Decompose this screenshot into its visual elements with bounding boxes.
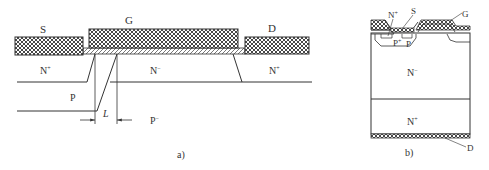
drain-label-b: D — [467, 143, 474, 153]
mosfet-cross-section-diagram: S G D N+ N− N+ P P− L a) N+ S — [0, 0, 489, 170]
gate-right-poly — [416, 20, 470, 30]
gate-label: G — [125, 14, 133, 26]
n-minus-label: N− — [150, 65, 161, 76]
source-leader — [402, 15, 413, 29]
figure-b-caption: b) — [405, 147, 413, 159]
n-plus-source-label: N+ — [40, 65, 51, 76]
figure-b: N+ S G P+ P N− N+ D b) — [371, 6, 474, 159]
n-plus-source-boundary — [17, 54, 95, 82]
source-label-b: S — [411, 6, 416, 16]
gate-leader — [450, 13, 462, 21]
n-plus-top-label: N+ — [388, 10, 399, 20]
drain-electrode — [245, 37, 309, 54]
figure-a: S G D N+ N− N+ P P− L a) — [15, 14, 312, 161]
figure-a-caption: a) — [177, 149, 185, 161]
channel-length-label: L — [102, 108, 109, 119]
gate-label-b: G — [462, 9, 469, 19]
p-label-b: P — [406, 39, 411, 49]
drain-label: D — [268, 22, 276, 34]
drain-leader — [445, 138, 466, 147]
substrate-body — [371, 33, 470, 134]
source-label: S — [40, 23, 46, 35]
p-body-label: P — [70, 92, 76, 103]
n-plus-drain-boundary — [233, 54, 242, 82]
drain-metal — [371, 134, 470, 138]
gate-electrode — [89, 29, 238, 48]
p-minus-label: P− — [150, 115, 160, 126]
source-electrode — [15, 37, 83, 55]
gate-oxide — [83, 48, 245, 54]
n-plus-drain-label: N+ — [269, 65, 280, 76]
